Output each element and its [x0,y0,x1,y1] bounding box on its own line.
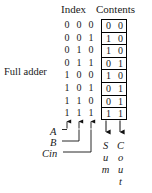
input-label-a: A [50,127,56,138]
output-label-cout: Cout [114,140,127,188]
sum-letter: m [102,164,110,176]
connector-b [62,130,79,142]
sum-letter: u [103,152,108,164]
cout-letter: o [118,152,123,164]
data-output-arrows [106,121,120,133]
wiring-overlay [0,0,152,193]
input-label-b: B [50,138,56,149]
cout-letter: u [118,164,123,176]
address-input-arrows [67,122,91,129]
cout-letter: t [119,176,122,188]
input-label-cin: Cin [42,149,57,160]
cout-letter: C [117,140,124,152]
full-adder-rom-figure: Index Contents Full adder 00000101001110… [0,0,152,193]
output-label-sum: Sum [99,140,112,176]
sum-letter: S [103,140,108,152]
